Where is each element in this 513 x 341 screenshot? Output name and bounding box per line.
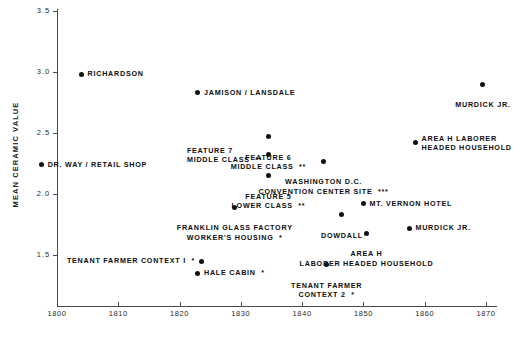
data-point-marker[interactable] bbox=[364, 231, 369, 236]
data-point-label: TENANT FARMER CONTEXT 2 * bbox=[291, 281, 362, 300]
x-tick-label: 1820 bbox=[160, 309, 200, 318]
data-point-marker[interactable] bbox=[339, 212, 344, 217]
x-axis-line bbox=[57, 306, 497, 307]
data-point-label: FEATURE 7 MIDDLE CLASS ** bbox=[187, 145, 263, 164]
data-point-label: FEATURE 5 LOWER CLASS ** bbox=[231, 192, 305, 211]
x-tick bbox=[241, 302, 242, 307]
y-tick-label: 2.5 bbox=[24, 129, 50, 137]
data-point-label: AREA H LABORER HEADED HOUSEHOLD bbox=[422, 133, 512, 152]
y-axis-line bbox=[57, 9, 58, 306]
x-tick-label: 1830 bbox=[221, 309, 261, 318]
data-point-marker[interactable] bbox=[79, 72, 84, 77]
y-tick bbox=[53, 255, 58, 256]
data-point-marker[interactable] bbox=[195, 90, 200, 95]
y-tick bbox=[53, 11, 58, 12]
data-point-label: JAMISON / LANSDALE bbox=[204, 88, 295, 98]
data-point-label: TENANT FARMER CONTEXT I * bbox=[67, 256, 195, 266]
x-tick bbox=[118, 302, 119, 307]
data-point-marker[interactable] bbox=[321, 159, 326, 164]
y-tick-label: 3.0 bbox=[24, 68, 50, 76]
data-point-marker[interactable] bbox=[361, 201, 366, 206]
x-tick-label: 1800 bbox=[37, 309, 77, 318]
y-tick bbox=[53, 133, 58, 134]
y-tick-label: 3.5 bbox=[24, 7, 50, 15]
x-tick bbox=[363, 302, 364, 307]
x-tick-label: 1850 bbox=[343, 309, 383, 318]
data-point-label: HALE CABIN * bbox=[204, 269, 265, 279]
data-point-marker[interactable] bbox=[407, 226, 412, 231]
y-tick bbox=[53, 194, 58, 195]
x-tick-label: 1840 bbox=[282, 309, 322, 318]
data-point-label: FRANKLIN GLASS FACTORY WORKER'S HOUSING … bbox=[177, 223, 293, 242]
x-tick bbox=[486, 302, 487, 307]
data-point-marker[interactable] bbox=[266, 134, 271, 139]
data-point-marker[interactable] bbox=[413, 140, 418, 145]
y-tick-label: 2.0 bbox=[24, 190, 50, 198]
data-point-label: RICHARDSON bbox=[88, 70, 144, 80]
x-tick-label: 1870 bbox=[466, 309, 506, 318]
data-point-label: AREA H LABORER HEADED HOUSEHOLD bbox=[300, 249, 434, 268]
scatter-plot-figure: MEAN CERAMIC VALUE 1.52.02.53.03.5 18001… bbox=[0, 0, 513, 341]
x-tick bbox=[180, 302, 181, 307]
data-point-label: MT. VERNON HOTEL bbox=[369, 199, 452, 209]
y-axis-title: MEAN CERAMIC VALUE bbox=[11, 95, 20, 215]
y-tick bbox=[53, 72, 58, 73]
data-point-label: MURDICK JR. bbox=[455, 100, 510, 110]
y-tick-label: 1.5 bbox=[24, 251, 50, 259]
data-point-marker[interactable] bbox=[39, 162, 44, 167]
data-point-marker[interactable] bbox=[195, 271, 200, 276]
x-tick-label: 1860 bbox=[405, 309, 445, 318]
x-tick-label: 1810 bbox=[98, 309, 138, 318]
data-point-label: MURDICK JR. bbox=[415, 223, 470, 233]
x-tick bbox=[425, 302, 426, 307]
x-tick bbox=[57, 302, 58, 307]
data-point-label: DR. WAY / RETAIL SHOP bbox=[48, 160, 147, 170]
data-point-label: DOWDALL bbox=[321, 231, 363, 241]
data-point-marker[interactable] bbox=[199, 259, 204, 264]
x-tick bbox=[302, 302, 303, 307]
data-point-marker[interactable] bbox=[480, 82, 485, 87]
